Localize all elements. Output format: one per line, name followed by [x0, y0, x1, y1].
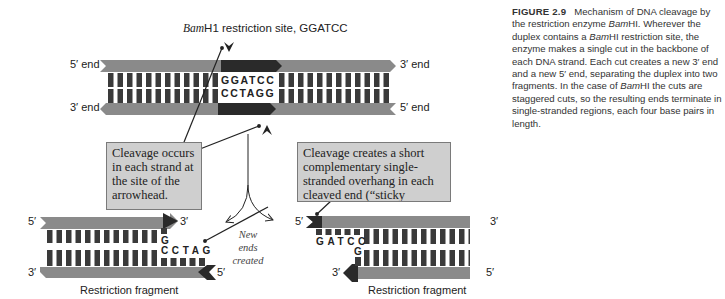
callout-cleavage-site: Cleavage occurs in each strand at the si… — [106, 142, 202, 210]
new-ends-label: New ends created — [228, 228, 268, 267]
left-fragment-label: Restriction fragment — [80, 284, 178, 296]
right-fragment — [306, 216, 470, 282]
right-frag-top-5: 5′ — [295, 215, 303, 227]
right-frag-bottom-3: 3′ — [332, 266, 340, 278]
figure-caption: FIGURE 2.9 Mechanism of DNA cleavage by … — [512, 6, 722, 130]
site-bottom-backbone — [218, 103, 276, 115]
callout-sticky-ends: Cleavage creates a short complementary s… — [297, 142, 451, 202]
top-cleavage-arrowhead — [224, 42, 234, 52]
bottom-cleavage-arrowhead — [262, 125, 272, 135]
right-frag-bottom-5: 5′ — [486, 266, 494, 278]
site-top-sequence: GGATCC — [221, 74, 275, 86]
left-frag-bottom-3: 3′ — [28, 266, 36, 278]
left-frag-top-3: 3′ — [180, 215, 188, 227]
site-bottom-sequence: CCTAGG — [221, 87, 275, 99]
site-top-backbone — [221, 60, 282, 72]
left-frag-bottom-5: 5′ — [217, 266, 225, 278]
figure-number: FIGURE 2.9 — [512, 6, 566, 17]
right-fragment-label: Restriction fragment — [368, 284, 466, 296]
right-frag-bottom-base: G — [354, 246, 362, 257]
left-frag-overhang: CCTAG — [161, 245, 214, 256]
left-frag-top-5: 5′ — [28, 215, 36, 227]
right-frag-top-3: 3′ — [490, 215, 498, 227]
